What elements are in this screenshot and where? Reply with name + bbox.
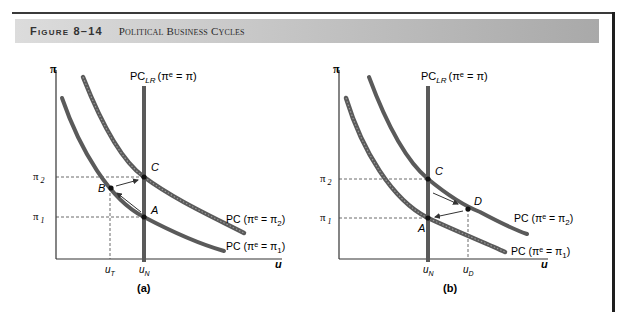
tick-un: uN xyxy=(139,264,151,277)
pi2-label: π2 xyxy=(33,170,45,185)
x-axis-label: u xyxy=(541,258,548,270)
curve-pi2-label: PC (πᵉ = π2) xyxy=(514,212,573,227)
point-c-label: C xyxy=(435,165,443,177)
pc-curve-pi2 xyxy=(369,77,527,234)
pc-curve-pi2 xyxy=(83,77,244,233)
arrow-b-to-c xyxy=(116,180,138,186)
panel-a: π u PCLR(πᵉ = π) π2 π1 B C A PC (πᵉ = π2… xyxy=(33,62,285,294)
tick-ut: uT xyxy=(105,264,116,277)
point-d xyxy=(465,206,470,211)
tick-ud: uD xyxy=(463,264,474,277)
y-axis-label: π xyxy=(50,62,57,76)
point-b xyxy=(108,185,113,190)
panel-a-label: (a) xyxy=(137,282,151,294)
pi1-label: π1 xyxy=(33,210,45,225)
long-run-label: PCLR(πᵉ = π) xyxy=(421,70,488,85)
curve-pi2-label: PC (πᵉ = π2) xyxy=(226,213,285,228)
pi2-label: π2 xyxy=(320,172,332,187)
long-run-label: PCLR(πᵉ = π) xyxy=(130,70,197,85)
point-b-label: B xyxy=(98,182,105,194)
point-c xyxy=(141,174,146,179)
panel-b: π u PCLR(πᵉ = π) π2 π1 C A D PC (πᵉ = π2… xyxy=(320,62,573,294)
curve-pi1-label: PC (πᵉ = π1) xyxy=(226,240,285,255)
point-a-label: A xyxy=(150,204,158,216)
point-d-label: D xyxy=(474,195,482,207)
point-a xyxy=(425,215,430,220)
panel-b-label: (b) xyxy=(443,282,457,294)
pi1-label: π1 xyxy=(320,211,332,226)
point-c xyxy=(425,176,430,181)
pc-curve-pi2-texture xyxy=(83,77,244,233)
tick-un: uN xyxy=(423,264,435,277)
point-a xyxy=(141,214,146,219)
arrow-d-to-a xyxy=(435,211,463,217)
y-axis-label: π xyxy=(333,62,340,76)
point-a-label: A xyxy=(417,222,425,234)
point-c-label: C xyxy=(151,161,159,173)
phillips-curve-figure: π u PCLR(πᵉ = π) π2 π1 B C A PC (πᵉ = π2… xyxy=(0,0,641,312)
x-axis-label: u xyxy=(275,258,282,270)
